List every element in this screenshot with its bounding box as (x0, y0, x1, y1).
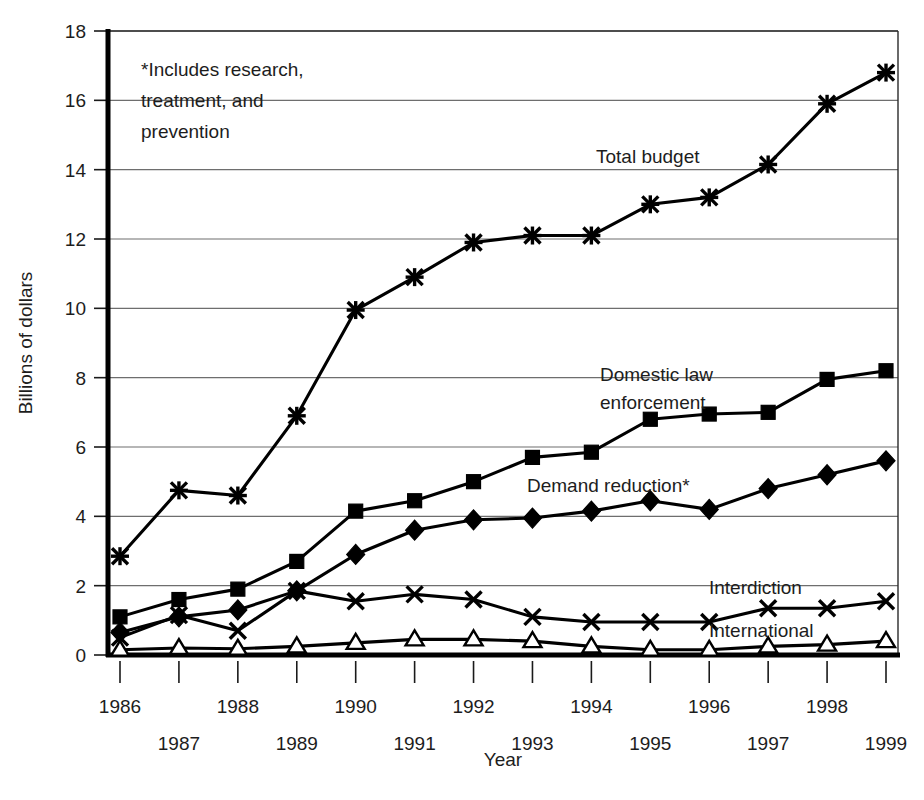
ytick-label-4: 4 (75, 506, 86, 527)
line-chart: 0246810121416181986198719881989199019911… (0, 0, 924, 800)
marker-domestic-law-enforcement-1994 (584, 445, 598, 459)
marker-domestic-law-enforcement-1993 (525, 450, 539, 464)
ytick-label-10: 10 (65, 298, 86, 319)
chart-figure: 0246810121416181986198719881989199019911… (0, 0, 924, 800)
ytick-label-2: 2 (75, 576, 86, 597)
marker-domestic-law-enforcement-1995 (643, 412, 657, 426)
marker-domestic-law-enforcement-1989 (290, 554, 304, 568)
ytick-label-16: 16 (65, 90, 86, 111)
marker-domestic-law-enforcement-1997 (761, 405, 775, 419)
xtick-label-1990: 1990 (335, 696, 377, 717)
marker-domestic-law-enforcement-1992 (467, 475, 481, 489)
xtick-label-1999: 1999 (865, 733, 907, 754)
series-label-total-budget: Total budget (596, 146, 700, 167)
y-axis-title: Billions of dollars (15, 272, 36, 415)
xtick-label-1996: 1996 (688, 696, 730, 717)
marker-domestic-law-enforcement-1999 (879, 364, 893, 378)
xtick-label-1995: 1995 (629, 733, 671, 754)
series-label-international: International (709, 620, 814, 641)
xtick-label-1991: 1991 (393, 733, 435, 754)
series-label-demand-reduction: Demand reduction* (527, 475, 690, 496)
ytick-label-18: 18 (65, 21, 86, 42)
marker-domestic-law-enforcement-1987 (172, 593, 186, 607)
xtick-label-1994: 1994 (570, 696, 613, 717)
footnote-line-1: *Includes research, (141, 59, 304, 80)
xtick-label-1989: 1989 (276, 733, 318, 754)
marker-domestic-law-enforcement-1998 (820, 372, 834, 386)
xtick-label-1986: 1986 (99, 696, 141, 717)
series-label-domestic-law-enforcement-line2: enforcement (600, 392, 706, 413)
ytick-label-6: 6 (75, 437, 86, 458)
marker-domestic-law-enforcement-1990 (349, 504, 363, 518)
marker-domestic-law-enforcement-1991 (408, 494, 422, 508)
ytick-label-0: 0 (75, 645, 86, 666)
x-axis-title: Year (484, 749, 523, 770)
ytick-label-12: 12 (65, 229, 86, 250)
xtick-label-1992: 1992 (452, 696, 494, 717)
ytick-label-8: 8 (75, 368, 86, 389)
marker-domestic-law-enforcement-1988 (231, 582, 245, 596)
series-label-interdiction: Interdiction (709, 577, 802, 598)
ytick-label-14: 14 (65, 160, 87, 181)
xtick-label-1987: 1987 (158, 733, 200, 754)
xtick-label-1997: 1997 (747, 733, 789, 754)
series-label-domestic-law-enforcement: Domestic law (600, 364, 713, 385)
footnote-line-2: treatment, and (141, 90, 264, 111)
xtick-label-1998: 1998 (806, 696, 848, 717)
footnote-line-3: prevention (141, 121, 230, 142)
xtick-label-1988: 1988 (217, 696, 259, 717)
